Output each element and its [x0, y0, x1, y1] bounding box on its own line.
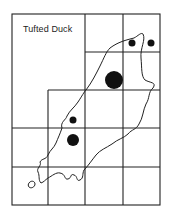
record-dot-small [148, 40, 155, 47]
record-dot-large [105, 71, 123, 89]
record-dot-small [70, 117, 77, 124]
map-frame [12, 14, 160, 205]
grid-lines [12, 14, 160, 205]
island-coastline [38, 33, 155, 183]
calf-of-man-islet [28, 181, 35, 188]
record-dot-medium [67, 134, 79, 146]
record-dot-small [129, 40, 136, 47]
map-title: Tufted Duck [23, 24, 72, 34]
